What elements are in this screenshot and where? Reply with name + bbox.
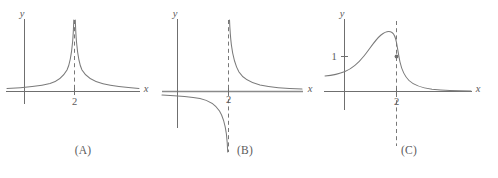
x-axis-label: x [307,83,313,94]
x-tick-label-2: 2 [226,94,231,105]
panel-c-caption: (C) [320,144,498,156]
x-axis-label: x [143,83,149,94]
figure-container: y x 2 (A) y x 2 (B) [0,0,498,178]
panel-c: y x 1 2 (C) [320,0,498,178]
x-tick-label-2: 2 [72,96,77,107]
y-axis-label: y [19,8,25,19]
panel-a: y x 2 (A) [0,0,166,178]
curve-right-branch [75,20,139,88]
marked-point-x-2 [395,55,399,59]
curve-left-branch [7,20,74,89]
curve-right-branch [230,20,303,89]
x-tick-label-2: 2 [394,96,399,107]
y-axis-label: y [172,8,178,19]
panel-b-caption: (B) [160,144,330,156]
x-axis-label: x [475,83,481,94]
panel-b: y x 2 (B) [160,0,330,178]
y-axis-label: y [339,8,345,19]
y-tick-label-1: 1 [331,51,336,62]
panel-a-caption: (A) [0,144,166,156]
curve-main [325,32,471,91]
